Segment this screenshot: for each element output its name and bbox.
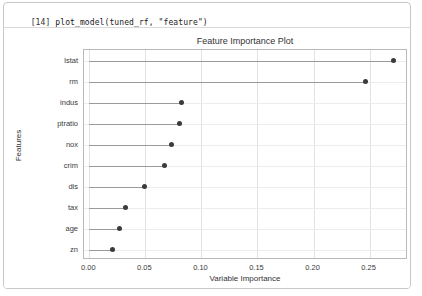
y-tick-label: rm bbox=[69, 76, 78, 85]
data-point[interactable] bbox=[169, 142, 174, 147]
y-tick-label: zn bbox=[70, 244, 78, 253]
x-tick-label: 0.25 bbox=[361, 263, 376, 272]
y-tick-label: crim bbox=[64, 160, 78, 169]
data-point[interactable] bbox=[110, 247, 115, 252]
x-tick-label: 0.20 bbox=[305, 263, 320, 272]
data-point[interactable] bbox=[391, 58, 396, 63]
y-tick-label: indus bbox=[60, 97, 78, 106]
x-tick-label: 0.05 bbox=[137, 263, 152, 272]
x-axis-title: Variable Importance bbox=[83, 274, 407, 283]
y-tick-label: nox bbox=[66, 139, 78, 148]
chart-title: Feature Importance Plot bbox=[83, 36, 407, 46]
stem-line bbox=[89, 61, 393, 62]
data-point[interactable] bbox=[142, 184, 147, 189]
y-axis-tick-labels: lstatrmindusptrationoxcrimdistaxagezn bbox=[33, 49, 78, 259]
plot-area bbox=[83, 49, 407, 259]
data-point[interactable] bbox=[177, 121, 182, 126]
feature-importance-figure: Feature Importance Plot Features lstatrm… bbox=[4, 28, 410, 288]
notebook-output-cell: [14]plot_model(tuned_rf, "feature") Feat… bbox=[3, 2, 411, 289]
stem-line bbox=[89, 208, 125, 209]
stem-line bbox=[89, 124, 179, 125]
y-gridline bbox=[84, 250, 406, 251]
y-gridline bbox=[84, 208, 406, 209]
y-axis-title: Features bbox=[14, 116, 23, 176]
y-gridline bbox=[84, 229, 406, 230]
data-point[interactable] bbox=[117, 226, 122, 231]
stem-line bbox=[89, 145, 171, 146]
data-point[interactable] bbox=[123, 205, 128, 210]
code-source-text: plot_model(tuned_rf, "feature") bbox=[55, 18, 207, 27]
data-point[interactable] bbox=[162, 163, 167, 168]
x-tick-label: 0.15 bbox=[249, 263, 264, 272]
stem-line bbox=[89, 103, 181, 104]
x-tick-label: 0.00 bbox=[81, 263, 96, 272]
stem-line bbox=[89, 82, 365, 83]
y-tick-label: tax bbox=[68, 202, 78, 211]
data-point[interactable] bbox=[363, 79, 368, 84]
stem-line bbox=[89, 187, 144, 188]
y-tick-label: dis bbox=[68, 181, 78, 190]
x-tick-label: 0.10 bbox=[193, 263, 208, 272]
cell-execution-count: [14] bbox=[31, 18, 51, 27]
y-tick-label: lstat bbox=[64, 55, 78, 64]
y-tick-label: ptratio bbox=[57, 118, 78, 127]
data-point[interactable] bbox=[179, 100, 184, 105]
y-tick-label: age bbox=[65, 223, 78, 232]
stem-line bbox=[89, 250, 113, 251]
stem-line bbox=[89, 229, 119, 230]
stem-line bbox=[89, 166, 164, 167]
